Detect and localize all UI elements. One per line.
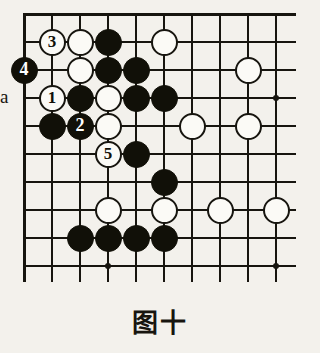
stone-white[interactable]: [235, 113, 262, 140]
grid-line-vertical: [23, 13, 26, 282]
grid-line-vertical: [191, 13, 193, 282]
stone-move-number: 5: [104, 145, 113, 162]
stone-white[interactable]: [235, 57, 262, 84]
grid-line-horizontal: [24, 13, 296, 16]
grid-line-vertical: [247, 13, 249, 282]
figure-caption: 图十: [0, 302, 320, 339]
stone-black[interactable]: [123, 225, 150, 252]
stone-move-number: 1: [48, 89, 57, 106]
stone-white[interactable]: [207, 197, 234, 224]
stone-black[interactable]: [67, 85, 94, 112]
stone-white-move-1[interactable]: 1: [39, 85, 66, 112]
stone-move-number: 2: [76, 116, 85, 134]
stone-black[interactable]: [151, 225, 178, 252]
star-point: [273, 95, 279, 101]
stone-black[interactable]: [39, 113, 66, 140]
grid-line-horizontal: [24, 153, 296, 155]
stone-white-move-3[interactable]: 3: [39, 29, 66, 56]
stone-black[interactable]: [151, 169, 178, 196]
stone-black[interactable]: [123, 141, 150, 168]
stone-black[interactable]: [123, 57, 150, 84]
stone-white-move-5[interactable]: 5: [95, 141, 122, 168]
stone-black-move-2[interactable]: 2: [67, 113, 94, 140]
point-label-a: a: [0, 86, 8, 108]
stone-white[interactable]: [95, 113, 122, 140]
stone-black[interactable]: [151, 85, 178, 112]
stone-white[interactable]: [151, 197, 178, 224]
stone-black[interactable]: [95, 225, 122, 252]
stone-white[interactable]: [67, 29, 94, 56]
star-point: [273, 263, 279, 269]
stone-white[interactable]: [179, 113, 206, 140]
stone-black[interactable]: [67, 225, 94, 252]
star-point: [105, 263, 111, 269]
grid-line-vertical: [275, 13, 277, 282]
stone-black[interactable]: [95, 57, 122, 84]
stone-white[interactable]: [95, 197, 122, 224]
grid-line-vertical: [219, 13, 221, 282]
grid-line-horizontal: [24, 265, 296, 267]
go-diagram-figure: 34125 a 图十: [0, 0, 320, 353]
go-board[interactable]: 34125 a: [0, 0, 320, 300]
stone-black[interactable]: [95, 29, 122, 56]
stone-white[interactable]: [263, 197, 290, 224]
stone-move-number: 3: [48, 33, 57, 50]
stone-move-number: 4: [20, 60, 29, 78]
stone-black[interactable]: [123, 85, 150, 112]
stone-white[interactable]: [67, 57, 94, 84]
stone-white[interactable]: [95, 85, 122, 112]
stone-white[interactable]: [151, 29, 178, 56]
stone-black-move-4[interactable]: 4: [11, 57, 38, 84]
